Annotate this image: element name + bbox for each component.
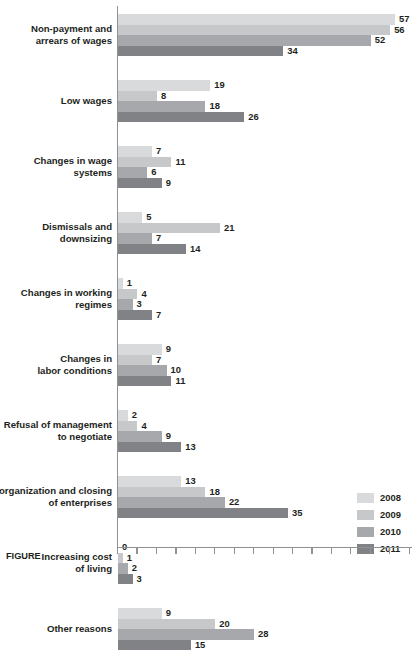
bar-value-label: 13 bbox=[181, 476, 195, 487]
bar[interactable] bbox=[118, 14, 395, 25]
bar-row[interactable]: 13 bbox=[118, 442, 196, 453]
bar[interactable] bbox=[118, 299, 133, 310]
bar-value-label: 56 bbox=[390, 25, 404, 36]
bar-row[interactable]: 15 bbox=[118, 640, 269, 651]
bar-row[interactable]: 18 bbox=[118, 101, 259, 112]
bar[interactable] bbox=[118, 112, 244, 123]
bar-row[interactable]: 2 bbox=[118, 563, 142, 574]
category-label-line: Dismissals and bbox=[42, 221, 112, 233]
bar[interactable] bbox=[118, 167, 147, 178]
bar[interactable] bbox=[118, 497, 225, 508]
bar-row[interactable]: 7 bbox=[118, 233, 234, 244]
bar[interactable] bbox=[118, 289, 137, 300]
bar-row[interactable]: 19 bbox=[118, 80, 259, 91]
bar-value-label: 18 bbox=[205, 101, 219, 112]
bar[interactable] bbox=[118, 101, 205, 112]
bar[interactable] bbox=[118, 410, 128, 421]
bar[interactable] bbox=[118, 310, 152, 321]
category-label: Other reasons bbox=[0, 602, 112, 654]
bar-row[interactable]: 2 bbox=[118, 410, 196, 421]
bar[interactable] bbox=[118, 355, 152, 366]
bar-set: 71169 bbox=[118, 146, 185, 188]
x-axis-tick bbox=[350, 547, 351, 554]
bar[interactable] bbox=[118, 157, 171, 168]
bar-value-label: 19 bbox=[210, 80, 224, 91]
bar-group: Other reasons9202815 bbox=[0, 602, 419, 654]
bar-row[interactable]: 9 bbox=[118, 344, 185, 355]
figure-caption: FIGURE bbox=[6, 551, 336, 560]
bar-row[interactable]: 22 bbox=[118, 497, 303, 508]
bar[interactable] bbox=[118, 80, 210, 91]
category-label: Changes inlabor conditions bbox=[0, 338, 112, 392]
bar-row[interactable]: 9 bbox=[118, 608, 269, 619]
bar-row[interactable]: 35 bbox=[118, 508, 303, 519]
category-label-line: Changes in working bbox=[21, 287, 112, 299]
bar-value-label: 9 bbox=[162, 608, 171, 619]
bar[interactable] bbox=[118, 223, 220, 234]
bar[interactable] bbox=[118, 178, 162, 189]
category-label: Changes in wagesystems bbox=[0, 140, 112, 194]
bar-set: 1981826 bbox=[118, 80, 259, 122]
category-label-line: of living bbox=[42, 563, 112, 575]
bar[interactable] bbox=[118, 476, 181, 487]
bar[interactable] bbox=[118, 233, 152, 244]
bar-row[interactable]: 34 bbox=[118, 46, 409, 57]
bar-row[interactable]: 26 bbox=[118, 112, 259, 123]
bar-row[interactable]: 1 bbox=[118, 278, 161, 289]
category-label-line: Reorganization and closing bbox=[0, 485, 112, 497]
bar[interactable] bbox=[118, 25, 390, 36]
category-label: Dismissals anddownsizing bbox=[0, 206, 112, 260]
bar[interactable] bbox=[118, 91, 157, 102]
bar-row[interactable]: 10 bbox=[118, 365, 185, 376]
bar[interactable] bbox=[118, 619, 215, 630]
bar-row[interactable]: 56 bbox=[118, 25, 409, 36]
bar[interactable] bbox=[118, 563, 128, 574]
bar-row[interactable]: 7 bbox=[118, 146, 185, 157]
bar-row[interactable]: 28 bbox=[118, 629, 269, 640]
bar-row[interactable]: 9 bbox=[118, 178, 185, 189]
bar[interactable] bbox=[118, 640, 191, 651]
bar[interactable] bbox=[118, 629, 254, 640]
x-axis-tick bbox=[409, 547, 410, 554]
bar[interactable] bbox=[118, 344, 162, 355]
legend-item[interactable]: 2010 bbox=[357, 525, 401, 538]
bar[interactable] bbox=[118, 431, 162, 442]
legend-label: 2009 bbox=[380, 510, 401, 520]
bar[interactable] bbox=[118, 608, 162, 619]
category-label-line: to negotiate bbox=[4, 431, 112, 443]
bar-row[interactable]: 18 bbox=[118, 487, 303, 498]
bar-row[interactable]: 9 bbox=[118, 431, 196, 442]
bar-row[interactable]: 5 bbox=[118, 212, 234, 223]
bar-row[interactable]: 14 bbox=[118, 244, 234, 255]
bar[interactable] bbox=[118, 244, 186, 255]
bar[interactable] bbox=[118, 442, 181, 453]
bar[interactable] bbox=[118, 35, 371, 46]
bar[interactable] bbox=[118, 365, 167, 376]
bar-row[interactable]: 11 bbox=[118, 376, 185, 387]
bar[interactable] bbox=[118, 421, 137, 432]
bar-row[interactable]: 52 bbox=[118, 35, 409, 46]
legend-item[interactable]: 2008 bbox=[357, 491, 401, 504]
bar-row[interactable]: 13 bbox=[118, 476, 303, 487]
bar-value-label: 35 bbox=[288, 508, 302, 519]
bar[interactable] bbox=[118, 574, 133, 585]
bar-row[interactable]: 3 bbox=[118, 574, 142, 585]
bar-row[interactable]: 6 bbox=[118, 167, 185, 178]
bar-row[interactable]: 57 bbox=[118, 14, 409, 25]
bar-value-label: 10 bbox=[167, 365, 181, 376]
bar[interactable] bbox=[118, 46, 283, 57]
category-label: Increasing costof living bbox=[0, 536, 112, 590]
legend-item[interactable]: 2009 bbox=[357, 508, 401, 521]
bar[interactable] bbox=[118, 508, 288, 519]
bar[interactable] bbox=[118, 487, 205, 498]
bar-row[interactable]: 8 bbox=[118, 91, 259, 102]
bar-row[interactable]: 21 bbox=[118, 223, 234, 234]
bar-row[interactable]: 20 bbox=[118, 619, 269, 630]
bar[interactable] bbox=[118, 376, 171, 387]
bar-value-label: 9 bbox=[162, 431, 171, 442]
bar-row[interactable]: 3 bbox=[118, 299, 161, 310]
bar-row[interactable]: 7 bbox=[118, 310, 161, 321]
bar[interactable] bbox=[118, 146, 152, 157]
bar-row[interactable]: 4 bbox=[118, 421, 196, 432]
bar[interactable] bbox=[118, 212, 142, 223]
